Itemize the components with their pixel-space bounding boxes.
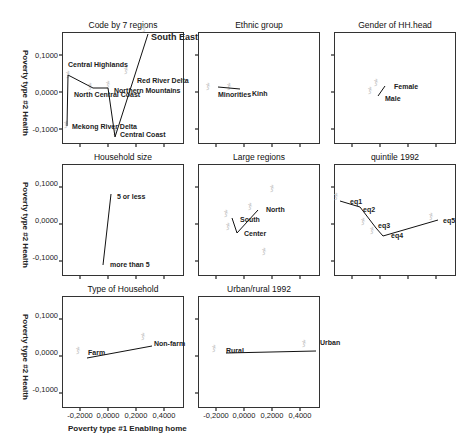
svg-text:ჯ: ჯ [106, 78, 110, 89]
label-minorities: Minorities [218, 91, 251, 98]
svg-text:ჯ: ჯ [212, 342, 216, 353]
svg-text:ჯ: ჯ [368, 84, 372, 95]
svg-text:ჯ: ჯ [270, 182, 274, 193]
line-household-size [103, 194, 111, 265]
label-female: Female [394, 83, 418, 90]
svg-text:ჯ: ჯ [361, 215, 365, 226]
svg-text:ჯ: ჯ [224, 207, 228, 218]
label-farm: Farm [88, 349, 105, 356]
svg-text:ჯ: ჯ [429, 210, 433, 221]
label-eq2: eq2 [363, 206, 375, 214]
label-central-highlands: Central Highlands [68, 61, 128, 69]
svg-text:ჯ: ჯ [142, 22, 146, 33]
label-south-east: South East [151, 32, 198, 42]
svg-text:ჯ: ჯ [374, 76, 378, 87]
label-eq1: eq1 [350, 198, 362, 206]
svg-text:ჯ: ჯ [334, 190, 338, 201]
label-central-coast: Central Coast [120, 131, 166, 138]
svg-text:ჯ: ჯ [226, 220, 230, 231]
label-eq3: eq3 [378, 222, 390, 230]
label-kinh: Kinh [252, 90, 268, 97]
svg-text:ჯ: ჯ [227, 80, 231, 91]
line-quintile [340, 201, 438, 236]
line-gender [378, 86, 385, 96]
svg-text:ჯ: ჯ [262, 245, 266, 256]
label-center: Center [244, 230, 266, 237]
svg-text:ჯ: ჯ [206, 80, 210, 91]
label-eq5: eq5 [443, 217, 455, 225]
label-rural: Rural [226, 347, 244, 354]
label-mekong-river-delta: Mekong River Delta [72, 123, 137, 131]
svg-text:ჯ: ჯ [302, 337, 306, 348]
label-male: Male [385, 95, 401, 102]
label-5-or-less: 5 or less [117, 193, 146, 200]
label-urban: Urban [320, 339, 340, 346]
plot-lines: ჯჯჯჯ ჯჯჯ ჯჯ ჯჯ ჯჯ ჯჯჯ ჯჯჯჯ ჯჯ ჯჯ Central… [0, 0, 472, 439]
svg-text:ჯ: ჯ [248, 200, 252, 211]
label-eq4: eq4 [391, 232, 403, 240]
label-red-river-delta: Red River Delta [137, 77, 189, 84]
svg-text:ჯ: ჯ [370, 224, 374, 235]
svg-text:ჯ: ჯ [76, 344, 80, 355]
label-north: North [266, 206, 285, 213]
label-non-farm: Non-farm [154, 340, 185, 347]
svg-text:ჯ: ჯ [141, 330, 145, 341]
label-south: South [240, 216, 260, 223]
label-more-than-5: more than 5 [110, 261, 150, 268]
label-northern-mountains: Northern Mountains [114, 87, 181, 94]
